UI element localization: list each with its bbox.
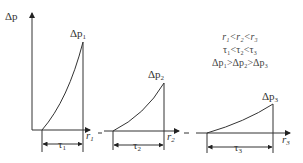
relation-tau: τ₁<τ₂<τ₃ [223,44,257,55]
panel-3 [196,104,290,153]
pressure-curve-1 [42,42,83,130]
tau-label-1: τ1 [58,138,66,152]
tau-label-2: τ2 [133,139,141,153]
relation-r: r₁<r₂<r₃ [222,31,258,42]
y-axis-label: Δp [5,10,18,22]
peak-label-3: Δp3 [262,90,279,104]
x-label-2: r2 [167,130,175,144]
pressure-curve-2 [113,83,164,131]
pressure-curve-3 [207,104,273,133]
peak-label-1: Δp1 [70,27,87,41]
peak-label-2: Δp2 [148,68,165,82]
relation-dp: Δp₁>Δp₂>Δp₃ [212,57,268,68]
tau-label-3: τ3 [234,141,242,155]
x-label-1: r1 [86,129,94,143]
x-label-3: r3 [282,133,290,147]
pressure-diagram: Δp Δp1 r1 τ1 Δp2 r2 τ2 Δp3 r3 τ3 r₁<r₂<r… [0,0,303,163]
